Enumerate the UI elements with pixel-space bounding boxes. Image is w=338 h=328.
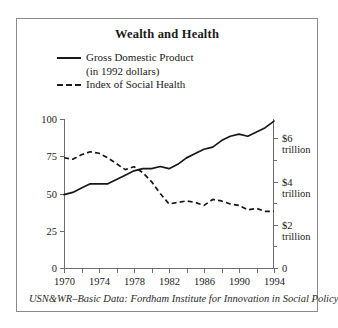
right-tick-unit: trillion xyxy=(282,188,311,199)
plot-area: 02550751000$2trillion$4trillion$6trillio… xyxy=(17,19,319,313)
left-tick-label: 50 xyxy=(47,189,58,200)
left-tick-label: 100 xyxy=(41,114,57,125)
axes-group: 02550751000$2trillion$4trillion$6trillio… xyxy=(41,114,311,287)
right-tick-label: $4 xyxy=(282,177,293,188)
left-tick-label: 75 xyxy=(47,151,58,162)
x-tick-label: 1986 xyxy=(194,276,215,287)
chart-figure: Wealth and Health Gross Domestic Product… xyxy=(16,18,318,312)
series-line-gross-domestic-product xyxy=(64,121,274,194)
right-tick-unit: trillion xyxy=(282,144,311,155)
x-tick-label: 1978 xyxy=(124,276,145,287)
right-tick-label: $6 xyxy=(282,133,293,144)
x-tick-label: 1974 xyxy=(89,276,111,287)
left-bottom-axis xyxy=(65,119,274,269)
right-tick-unit: trillion xyxy=(282,231,311,242)
right-tick-label: 0 xyxy=(282,263,287,274)
x-tick-label: 1990 xyxy=(229,276,250,287)
source-note: USN&WR–Basic Data: Fordham Institute for… xyxy=(29,293,338,304)
right-tick-label: $2 xyxy=(282,220,293,231)
x-tick-label: 1970 xyxy=(54,276,75,287)
x-tick-label: 1994 xyxy=(264,276,286,287)
left-tick-label: 25 xyxy=(47,226,58,237)
x-tick-label: 1982 xyxy=(159,276,180,287)
left-tick-label: 0 xyxy=(52,263,57,274)
series-group xyxy=(64,121,274,211)
series-line-index-of-social-health xyxy=(64,152,274,212)
